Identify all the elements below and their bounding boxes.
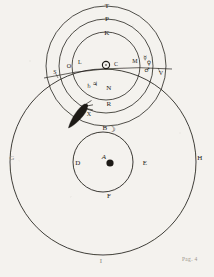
label-l: L xyxy=(78,59,82,65)
label-n: N xyxy=(106,85,111,92)
moon-symbol: ☽ xyxy=(108,126,115,134)
label-g: G xyxy=(9,155,14,162)
label-k-top: K xyxy=(104,30,109,37)
label-c: C xyxy=(114,61,118,67)
label-i: I xyxy=(100,258,103,265)
label-a: A xyxy=(102,154,106,161)
label-e: E xyxy=(143,160,147,167)
diagram-canvas xyxy=(0,0,214,277)
label-t: T xyxy=(105,3,109,10)
label-m: M xyxy=(132,58,138,64)
mars-symbol: ♂ xyxy=(144,67,149,73)
label-b: B xyxy=(103,125,108,132)
label-d: D xyxy=(75,160,80,167)
inner-orbit-circle-a xyxy=(73,132,133,192)
body-c-ring xyxy=(102,61,109,68)
label-v: V xyxy=(159,70,164,76)
jupiter-symbol: ♃ xyxy=(92,81,97,87)
label-o: O xyxy=(67,63,72,69)
great-orbit-circle xyxy=(10,69,196,255)
engraving-plate: T P K C M V S O L N R X B A D E F G H I … xyxy=(0,0,214,277)
label-x: X xyxy=(87,111,92,117)
label-p: P xyxy=(105,16,109,23)
label-r: R xyxy=(107,101,112,108)
page-mark: Pag. 4 xyxy=(182,256,198,262)
body-a-disc xyxy=(106,159,113,166)
label-s: S xyxy=(53,69,57,75)
saturn-symbol: ♄ xyxy=(86,83,91,89)
label-f: F xyxy=(107,193,111,200)
label-h: H xyxy=(197,155,202,162)
